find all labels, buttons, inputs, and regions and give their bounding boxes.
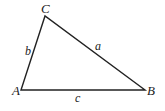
vertex-label-b: B [147, 83, 155, 98]
side-label-b: b [25, 44, 31, 58]
vertex-label-a: A [11, 83, 20, 98]
side-label-a: a [95, 39, 101, 53]
vertex-label-c: C [41, 1, 50, 16]
triangle-abc [21, 16, 145, 90]
side-label-c: c [75, 91, 81, 105]
triangle-diagram: A B C a b c [0, 0, 165, 111]
